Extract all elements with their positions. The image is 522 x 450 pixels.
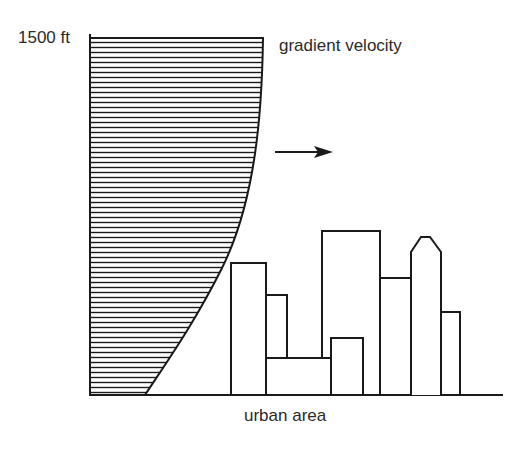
building	[266, 358, 331, 395]
wind-profile-diagram	[0, 0, 522, 450]
building	[380, 278, 411, 395]
building	[231, 263, 266, 395]
pointed-tower	[411, 237, 441, 395]
wind-direction-arrow	[275, 146, 333, 158]
urban-buildings	[231, 231, 460, 395]
building	[441, 312, 460, 395]
building	[331, 338, 363, 395]
